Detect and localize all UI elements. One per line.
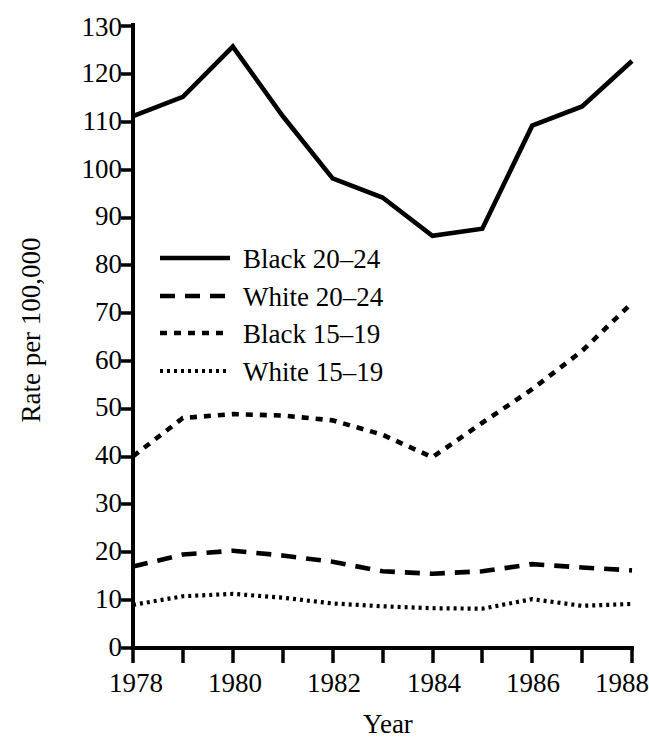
line-chart: 130 120 110 100 90 80 70 60 50 40 30 20 … (0, 0, 649, 747)
y-axis-title: Rate per 100,000 (16, 237, 46, 422)
series-line-white-20-24 (133, 551, 632, 574)
y-tick-label-60: 60 (95, 345, 122, 375)
legend-label-black-15-19: Black 15–19 (243, 319, 380, 349)
legend-label-black-20-24: Black 20–24 (243, 244, 381, 274)
legend-item-white-15-19[interactable]: White 15–19 (160, 357, 383, 387)
y-tick-label-120: 120 (82, 58, 123, 88)
legend-label-white-20-24: White 20–24 (243, 282, 384, 312)
y-tick-label-110: 110 (83, 106, 123, 136)
y-tick-label-100: 100 (82, 154, 123, 184)
x-tick-label-1984: 1984 (407, 668, 462, 698)
legend: Black 20–24 White 20–24 Black 15–19 Whit… (160, 244, 384, 387)
legend-item-black-20-24[interactable]: Black 20–24 (160, 244, 381, 274)
y-tick-label-50: 50 (95, 392, 122, 422)
y-tick-label-70: 70 (95, 297, 122, 327)
series-line-white-15-19 (133, 594, 632, 609)
y-tick-label-90: 90 (95, 201, 122, 231)
series-line-black-20-24 (133, 47, 632, 236)
y-tick-label-10: 10 (95, 584, 122, 614)
y-tick-label-0: 0 (109, 632, 123, 662)
x-tick-label-1982: 1982 (307, 668, 361, 698)
x-tick-label-1980: 1980 (208, 668, 262, 698)
legend-item-black-15-19[interactable]: Black 15–19 (160, 319, 380, 349)
legend-item-white-20-24[interactable]: White 20–24 (160, 282, 384, 312)
y-tick-label-130: 130 (82, 12, 123, 42)
y-tick-label-20: 20 (95, 536, 122, 566)
x-tick-label-1986: 1986 (506, 668, 560, 698)
x-tick-label-1978: 1978 (109, 668, 163, 698)
y-tick-label-40: 40 (95, 440, 122, 470)
x-tick-label-1988: 1988 (595, 668, 649, 698)
chart-figure: 130 120 110 100 90 80 70 60 50 40 30 20 … (0, 0, 649, 747)
y-tick-label-80: 80 (95, 249, 122, 279)
x-axis-title: Year (363, 709, 413, 739)
y-tick-label-30: 30 (95, 488, 122, 518)
legend-label-white-15-19: White 15–19 (243, 357, 383, 387)
